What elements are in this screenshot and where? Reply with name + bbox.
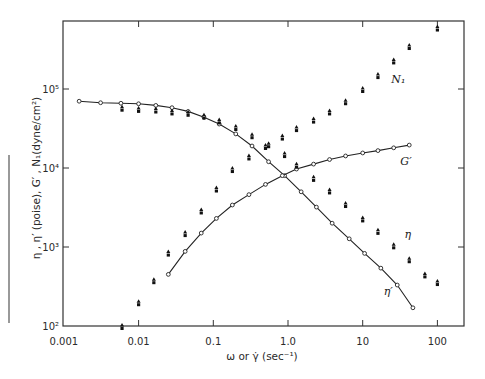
triangle-marker bbox=[152, 277, 156, 281]
square-marker bbox=[376, 76, 379, 79]
square-marker bbox=[167, 254, 170, 257]
series-label: N₁ bbox=[390, 73, 405, 86]
y-tick-label: 10² bbox=[42, 321, 59, 332]
data-point bbox=[137, 102, 141, 106]
square-marker bbox=[137, 303, 140, 306]
data-point bbox=[247, 153, 251, 160]
triangle-marker bbox=[344, 201, 348, 205]
x-tick-label: 0.001 bbox=[50, 336, 79, 347]
data-point bbox=[361, 151, 365, 155]
triangle-marker bbox=[423, 271, 427, 275]
data-point bbox=[267, 141, 271, 148]
triangle-marker bbox=[312, 175, 316, 179]
square-marker bbox=[154, 111, 157, 114]
square-marker bbox=[281, 138, 284, 141]
data-point bbox=[267, 160, 271, 164]
data-point bbox=[214, 217, 218, 221]
data-point bbox=[202, 113, 206, 120]
data-point bbox=[183, 230, 187, 237]
data-point bbox=[312, 162, 316, 166]
square-marker bbox=[247, 157, 250, 160]
series-eta bbox=[120, 105, 439, 286]
data-point bbox=[280, 174, 284, 178]
data-point bbox=[407, 143, 411, 147]
series-g-prime bbox=[166, 143, 411, 276]
data-point bbox=[395, 283, 399, 287]
data-point bbox=[295, 125, 299, 132]
triangle-marker bbox=[283, 151, 287, 155]
square-marker bbox=[215, 190, 218, 193]
x-tick-label: 0.1 bbox=[205, 336, 221, 347]
square-marker bbox=[344, 102, 347, 105]
data-point bbox=[166, 272, 170, 276]
triangle-marker bbox=[344, 98, 348, 102]
y-axis-title: η , η′ (poise), G′ , N₁(dyne/cm²) bbox=[30, 97, 42, 259]
data-point bbox=[264, 143, 268, 150]
data-point bbox=[250, 132, 254, 139]
triangle-marker bbox=[202, 113, 206, 117]
data-point bbox=[152, 277, 156, 284]
triangle-marker bbox=[214, 186, 218, 190]
data-point bbox=[376, 72, 380, 79]
triangle-marker bbox=[250, 132, 254, 136]
triangle-marker bbox=[392, 242, 396, 246]
square-marker bbox=[392, 246, 395, 249]
x-axis: 0.0010.010.11.010100 bbox=[50, 21, 447, 347]
square-marker bbox=[187, 114, 190, 117]
square-marker bbox=[295, 129, 298, 132]
triangle-marker bbox=[435, 279, 439, 283]
data-point bbox=[230, 166, 234, 173]
square-marker bbox=[202, 117, 205, 120]
square-marker bbox=[231, 170, 234, 173]
triangle-marker bbox=[392, 57, 396, 61]
data-point bbox=[119, 101, 123, 105]
data-point bbox=[199, 207, 203, 214]
triangle-marker bbox=[120, 323, 124, 327]
triangle-marker bbox=[328, 187, 332, 191]
data-point bbox=[392, 242, 396, 249]
series-label: η′ bbox=[384, 285, 394, 298]
data-point bbox=[234, 132, 238, 136]
triangle-marker bbox=[234, 124, 238, 128]
square-marker bbox=[408, 47, 411, 50]
plot-frame bbox=[63, 21, 464, 326]
square-marker bbox=[423, 275, 426, 278]
data-point bbox=[376, 228, 380, 235]
data-point bbox=[299, 190, 303, 194]
data-point bbox=[361, 215, 365, 222]
series-eta-prime bbox=[77, 99, 415, 309]
square-marker bbox=[200, 211, 203, 214]
square-marker bbox=[120, 109, 123, 112]
data-point bbox=[295, 162, 299, 169]
data-point bbox=[344, 154, 348, 158]
square-marker bbox=[328, 191, 331, 194]
triangle-marker bbox=[137, 299, 141, 303]
square-marker bbox=[436, 29, 439, 32]
data-point bbox=[283, 151, 287, 158]
data-point bbox=[120, 105, 124, 112]
data-point bbox=[392, 146, 396, 150]
triangle-marker bbox=[376, 72, 380, 76]
data-point bbox=[77, 99, 81, 103]
data-point bbox=[250, 144, 254, 148]
square-marker bbox=[120, 327, 123, 330]
triangle-marker bbox=[217, 117, 221, 121]
data-point bbox=[328, 108, 332, 115]
square-marker bbox=[170, 112, 173, 115]
data-point bbox=[230, 203, 234, 207]
triangle-marker bbox=[407, 43, 411, 47]
series-label: η bbox=[404, 228, 411, 241]
square-marker bbox=[361, 219, 364, 222]
data-point bbox=[392, 57, 396, 64]
triangle-marker bbox=[328, 108, 332, 112]
data-point bbox=[344, 201, 348, 208]
x-tick-label: 100 bbox=[428, 336, 447, 347]
data-point bbox=[214, 186, 218, 193]
square-marker bbox=[436, 283, 439, 286]
triangle-marker bbox=[312, 117, 316, 121]
data-point bbox=[217, 117, 221, 124]
square-marker bbox=[361, 90, 364, 93]
data-point bbox=[199, 231, 203, 235]
data-point bbox=[363, 251, 367, 255]
square-marker bbox=[312, 121, 315, 124]
